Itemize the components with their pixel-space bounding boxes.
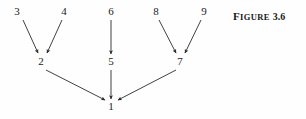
edge-2-to-1: [46, 70, 105, 100]
edge-8-to-7: [159, 20, 176, 53]
graph-node-8: 8: [149, 6, 163, 17]
figure-caption-number: 3.6: [273, 11, 286, 22]
edge-3-to-2: [23, 20, 38, 53]
graph-node-4: 4: [57, 6, 71, 17]
figure-panel: 1 2 3 4 5 6 7 8 9 FIGURE3.6: [0, 0, 306, 119]
figure-caption: FIGURE3.6: [233, 6, 285, 24]
graph-node-3: 3: [10, 6, 24, 17]
graph-node-7: 7: [173, 56, 187, 67]
graph-node-6: 6: [104, 6, 118, 17]
graph-node-2: 2: [34, 56, 48, 67]
figure-caption-word: IGURE: [240, 12, 270, 22]
graph-node-5: 5: [104, 56, 118, 67]
graph-node-9: 9: [197, 6, 211, 17]
edge-4-to-2: [47, 20, 62, 53]
edge-7-to-1: [118, 70, 176, 100]
edge-9-to-7: [185, 20, 201, 53]
graph-node-1: 1: [104, 101, 118, 112]
figure-caption-initial: F: [233, 10, 240, 22]
